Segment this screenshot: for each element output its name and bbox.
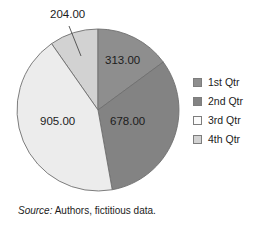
legend-label-qtr1: 1st Qtr	[208, 76, 240, 88]
legend-item-qtr2[interactable]: 2nd Qtr	[193, 93, 257, 109]
source-prefix: Source:	[18, 205, 52, 216]
slice-value-qtr4: 204.00	[50, 8, 85, 20]
legend-item-qtr4[interactable]: 4th Qtr	[193, 131, 257, 147]
slice-value-qtr2: 678.00	[110, 115, 145, 127]
source-text: Authors, fictitious data.	[55, 205, 156, 216]
legend-label-qtr2: 2nd Qtr	[208, 95, 243, 107]
legend-item-qtr3[interactable]: 3rd Qtr	[193, 112, 257, 128]
source-note: Source: Authors, fictitious data.	[18, 205, 156, 216]
legend-item-qtr1[interactable]: 1st Qtr	[193, 74, 257, 90]
legend-swatch-qtr2	[193, 97, 202, 106]
legend-label-qtr3: 3rd Qtr	[208, 114, 241, 126]
chart-legend: 1st Qtr 2nd Qtr 3rd Qtr 4th Qtr	[193, 74, 257, 150]
legend-swatch-qtr3	[193, 116, 202, 125]
slice-value-qtr1: 313.00	[105, 54, 140, 66]
legend-label-qtr4: 4th Qtr	[208, 133, 240, 145]
legend-swatch-qtr4	[193, 135, 202, 144]
pie-chart-figure: 204.00 313.00 678.00 905.00 1st Qtr 2nd …	[0, 0, 258, 241]
legend-swatch-qtr1	[193, 78, 202, 87]
slice-value-qtr3: 905.00	[40, 115, 75, 127]
